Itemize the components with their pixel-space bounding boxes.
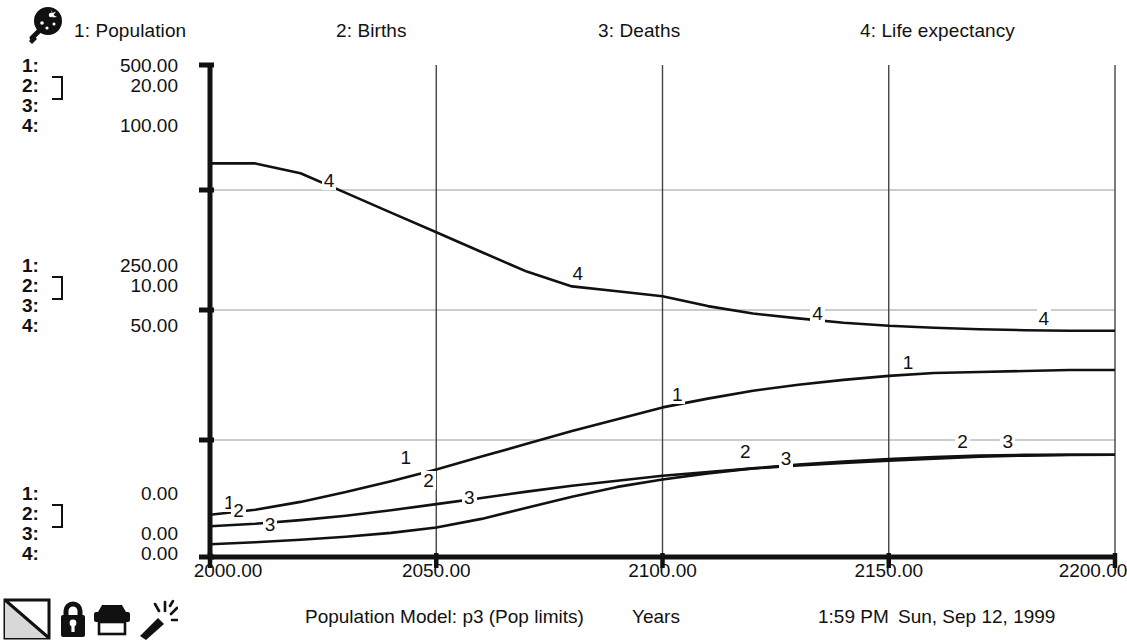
lock-icon[interactable]	[58, 600, 88, 640]
x-tick-label: 2150.00	[854, 560, 923, 582]
x-tick-label: 2100.00	[628, 560, 697, 582]
status-date: Sun, Sep 12, 1999	[898, 606, 1055, 628]
x-tick-label: 2200.00	[1059, 560, 1127, 582]
x-axis-tick-labels: 2000.002050.002100.002150.002200.00	[0, 0, 1126, 600]
printer-icon[interactable]	[92, 602, 132, 640]
magic-wand-icon[interactable]	[136, 598, 178, 640]
x-tick-label: 2050.00	[402, 560, 471, 582]
status-time: 1:59 PM	[818, 606, 889, 628]
status-bar: Population Model: p3 (Pop limits) Years …	[0, 596, 1126, 640]
status-units-label: Years	[632, 606, 680, 628]
x-tick-label: 2000.00	[194, 560, 263, 582]
status-model-name: Population Model: p3 (Pop limits)	[305, 606, 584, 628]
graph-page-icon[interactable]	[2, 598, 54, 640]
